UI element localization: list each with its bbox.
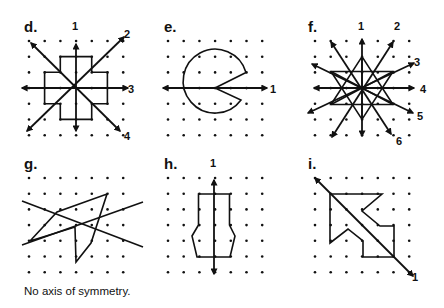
grid-dot bbox=[167, 71, 170, 74]
grid-dot bbox=[167, 208, 170, 211]
grid-dot bbox=[214, 71, 217, 74]
grid-dot bbox=[106, 224, 109, 227]
grid-dot bbox=[345, 240, 348, 243]
grid-dot bbox=[245, 255, 248, 258]
panel-e: 1 bbox=[163, 49, 276, 113]
grid-dot bbox=[408, 40, 411, 43]
grid-dot bbox=[75, 40, 78, 43]
grid-dot bbox=[392, 118, 395, 121]
grid-dot bbox=[28, 177, 31, 180]
grid-dot bbox=[59, 177, 62, 180]
axis-label-2: 2 bbox=[124, 28, 130, 40]
grid-dot bbox=[75, 177, 78, 180]
grid-dot bbox=[314, 192, 317, 195]
grid-dot bbox=[167, 224, 170, 227]
grid-dot bbox=[261, 271, 264, 274]
grid-dot bbox=[43, 271, 46, 274]
grid-dot bbox=[43, 177, 46, 180]
axis-label-5: 5 bbox=[417, 110, 423, 122]
grid-dot bbox=[182, 271, 185, 274]
panel-h: 1 bbox=[192, 157, 235, 274]
grid-dot bbox=[198, 71, 201, 74]
grid-dot bbox=[198, 134, 201, 137]
panel-f: 1 2 3 4 5 6 bbox=[308, 20, 427, 147]
grid-dot bbox=[408, 208, 411, 211]
grid-dot bbox=[245, 208, 248, 211]
grid-dot bbox=[245, 192, 248, 195]
axis-label-1: 1 bbox=[358, 20, 364, 32]
grid-dot bbox=[408, 255, 411, 258]
grid-dot bbox=[314, 118, 317, 121]
grid-dot bbox=[43, 40, 46, 43]
grid-dot bbox=[329, 271, 332, 274]
grid-dot bbox=[182, 134, 185, 137]
grid-dot bbox=[182, 240, 185, 243]
grid-dot bbox=[245, 134, 248, 137]
grid-dot bbox=[106, 271, 109, 274]
grid-dot bbox=[59, 134, 62, 137]
grid-dot bbox=[245, 240, 248, 243]
grid-dot bbox=[392, 208, 395, 211]
grid-dot bbox=[28, 208, 31, 211]
grid-dot bbox=[314, 71, 317, 74]
grid-dot bbox=[75, 134, 78, 137]
grid-dot bbox=[182, 103, 185, 106]
grid-dot bbox=[230, 118, 233, 121]
grid-dot bbox=[314, 224, 317, 227]
panel-d: 1 2 3 4 bbox=[22, 20, 134, 142]
grid-dot bbox=[167, 255, 170, 258]
grid-dot bbox=[122, 40, 125, 43]
grid-dot bbox=[408, 71, 411, 74]
grid-dot bbox=[167, 192, 170, 195]
grid-dot bbox=[261, 71, 264, 74]
grid-dot bbox=[59, 255, 62, 258]
grid-dot bbox=[245, 271, 248, 274]
grid-dot bbox=[122, 271, 125, 274]
grid-dot bbox=[392, 192, 395, 195]
grid-dot bbox=[106, 40, 109, 43]
grid-dot bbox=[261, 208, 264, 211]
grid-dot bbox=[122, 192, 125, 195]
grid-dot bbox=[230, 240, 233, 243]
grid-dot bbox=[314, 255, 317, 258]
grid-dot bbox=[245, 55, 248, 58]
grid-dot bbox=[245, 103, 248, 106]
grid-dot bbox=[198, 103, 201, 106]
grid-dot bbox=[392, 55, 395, 58]
grid-dot bbox=[43, 134, 46, 137]
axis-label-6: 6 bbox=[396, 135, 402, 147]
grid-dot bbox=[261, 255, 264, 258]
grid-dot bbox=[59, 240, 62, 243]
grid-dot bbox=[408, 55, 411, 58]
grid-dot bbox=[182, 255, 185, 258]
grid-dot bbox=[91, 271, 94, 274]
grid-dot bbox=[377, 271, 380, 274]
grid-dot bbox=[122, 224, 125, 227]
grid-dot bbox=[167, 40, 170, 43]
grid-dot bbox=[167, 55, 170, 58]
grid-dot bbox=[377, 40, 380, 43]
grid-dot bbox=[314, 208, 317, 211]
grid-dot bbox=[245, 177, 248, 180]
grid-dot bbox=[28, 192, 31, 195]
grid-dot bbox=[28, 224, 31, 227]
grid-dot bbox=[377, 118, 380, 121]
grid-dot bbox=[198, 240, 201, 243]
grid-dot bbox=[261, 55, 264, 58]
grid-dot bbox=[329, 255, 332, 258]
grid-dot bbox=[377, 55, 380, 58]
grid-dot bbox=[28, 255, 31, 258]
grid-dot bbox=[329, 118, 332, 121]
grid-dot bbox=[43, 240, 46, 243]
grid-dot bbox=[261, 118, 264, 121]
grid-dot bbox=[122, 255, 125, 258]
grid-dot bbox=[261, 192, 264, 195]
grid-dot bbox=[91, 192, 94, 195]
panel-label-d: d. bbox=[24, 18, 37, 35]
grid-dot bbox=[230, 55, 233, 58]
grid-dot bbox=[122, 118, 125, 121]
grid-dot bbox=[345, 255, 348, 258]
grid-dot bbox=[167, 134, 170, 137]
grid-dot bbox=[314, 40, 317, 43]
panel-label-i: i. bbox=[308, 155, 316, 172]
